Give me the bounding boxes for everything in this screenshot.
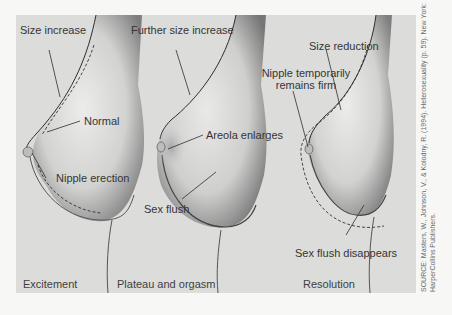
label-sex-flush-disappears: Sex flush disappears [295, 247, 397, 259]
plateau-breast [157, 15, 267, 293]
source-line-1: SOURCE: Masters, W., Johnson, V., & Kolo… [420, 2, 429, 292]
label-sex-flush: Sex flush [144, 203, 189, 215]
label-nipple-remains-firm-line2: remains firm [246, 79, 366, 91]
source-credit: SOURCE: Masters, W., Johnson, V., & Kolo… [420, 2, 437, 292]
label-size-reduction: Size reduction [309, 40, 379, 52]
label-nipple-remains-firm: Nipple temporarily remains firm [246, 67, 366, 91]
stage-excitement: Excitement [23, 278, 77, 290]
source-line-2: HarperCollins Publishers. [429, 2, 438, 292]
label-normal: Normal [84, 115, 119, 127]
excitement-breast [23, 15, 144, 293]
illustration-panel: Size increase Normal Nipple erection Fur… [16, 15, 416, 293]
breast-response-figure: Size increase Normal Nipple erection Fur… [0, 0, 452, 315]
stage-plateau-and-orgasm: Plateau and orgasm [117, 278, 215, 290]
label-nipple-erection: Nipple erection [56, 172, 129, 184]
label-areola-enlarges: Areola enlarges [206, 129, 283, 141]
label-further-size-increase: Further size increase [131, 24, 234, 36]
stage-resolution: Resolution [303, 278, 355, 290]
label-nipple-remains-firm-line1: Nipple temporarily [246, 67, 366, 79]
label-size-increase: Size increase [20, 24, 86, 36]
